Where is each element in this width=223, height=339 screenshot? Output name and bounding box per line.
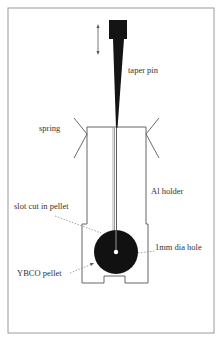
pellet-leader-arrow [90,263,94,266]
spring-right [146,118,159,158]
label-pellet: YBCO pellet [17,268,62,278]
label-al-holder: Al holder [151,186,184,196]
label-slot-cut: slot cut in pellet [14,201,69,211]
hole-leader [138,251,155,253]
hole-marker [114,250,118,254]
slot-leader [55,216,101,233]
label-hole: 1mm dia hole [155,242,202,252]
apparatus-diagram: taper pin spring Al holder slot cut in p… [0,0,223,339]
label-spring: spring [39,123,61,133]
label-taper-pin: taper pin [128,65,159,75]
pellet-leader [70,264,92,273]
figure-frame [8,8,214,333]
double-arrow-icon [97,24,100,55]
spring-left [74,118,87,158]
